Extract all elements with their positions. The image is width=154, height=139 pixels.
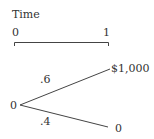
timeline-start-label: 0	[12, 27, 19, 38]
upper-branch-probability: .6	[40, 74, 51, 85]
branch-line-lower	[20, 105, 108, 127]
upper-branch-outcome: $1,000	[111, 63, 150, 74]
timeline-bracket	[15, 43, 109, 47]
lower-branch-outcome: 0	[115, 123, 122, 134]
lower-branch-probability: .4	[40, 116, 51, 127]
root-value: 0	[10, 100, 17, 111]
timeline-title: Time	[12, 9, 40, 20]
timeline-end-label: 1	[103, 27, 110, 38]
branch-line-upper	[20, 69, 110, 105]
